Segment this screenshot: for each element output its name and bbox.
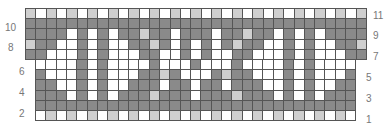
chart-cell	[108, 91, 118, 101]
chart-cell	[150, 101, 160, 111]
chart-cell	[212, 29, 222, 39]
chart-cell	[77, 60, 87, 70]
chart-cell	[150, 40, 160, 50]
chart-cell	[46, 80, 56, 90]
chart-cell	[26, 19, 36, 29]
chart-cell	[191, 91, 201, 101]
chart-cell	[129, 70, 139, 80]
chart-cell	[232, 101, 242, 111]
chart-cell	[160, 29, 170, 39]
chart-cell	[212, 60, 222, 70]
chart-cell	[119, 91, 129, 101]
chart-cell	[232, 111, 242, 121]
chart-cell	[274, 60, 284, 70]
chart-cell	[46, 60, 56, 70]
chart-cell	[129, 60, 139, 70]
chart-cell	[222, 91, 232, 101]
chart-cell	[294, 111, 304, 121]
chart-cell	[212, 19, 222, 29]
chart-cell	[191, 111, 201, 121]
chart-cell	[150, 29, 160, 39]
chart-cell	[150, 60, 160, 70]
chart-cell	[346, 60, 356, 70]
chart-cell	[78, 40, 88, 50]
chart-cell	[98, 29, 108, 39]
chart-cell	[181, 91, 191, 101]
chart-cell	[57, 91, 67, 101]
chart-cell	[201, 101, 211, 111]
chart-cell	[336, 60, 346, 70]
chart-cell	[326, 9, 336, 19]
chart-cell	[129, 9, 139, 19]
chart-cell	[336, 111, 346, 121]
chart-cell	[326, 29, 336, 39]
chart-cell	[243, 29, 253, 39]
chart-cell	[67, 101, 77, 111]
chart-cell	[77, 111, 87, 121]
chart-cell	[88, 60, 98, 70]
chart-cell	[263, 111, 273, 121]
chart-cell	[36, 101, 46, 111]
chart-cell	[57, 40, 67, 50]
chart-cell	[77, 80, 87, 90]
chart-grid-top	[25, 8, 367, 60]
chart-cell	[98, 111, 108, 121]
chart-cell	[46, 91, 56, 101]
chart-cell	[26, 40, 36, 50]
chart-cell	[171, 19, 181, 29]
chart-cell	[202, 29, 212, 39]
chart-cell	[67, 19, 77, 29]
chart-cell	[129, 80, 139, 90]
chart-cell	[36, 9, 46, 19]
chart-cell	[88, 19, 98, 29]
chart-cell	[139, 91, 149, 101]
chart-cell	[315, 9, 325, 19]
row-label-3: 3	[366, 94, 372, 104]
chart-cell	[243, 111, 253, 121]
chart-cell	[150, 80, 160, 90]
chart-cell	[305, 80, 315, 90]
chart-cell	[108, 111, 118, 121]
chart-cell	[284, 9, 294, 19]
chart-cell	[67, 91, 77, 101]
chart-cell	[108, 60, 118, 70]
chart-cell	[202, 9, 212, 19]
chart-cell	[57, 29, 67, 39]
chart-cell	[346, 19, 356, 29]
chart-cell	[160, 70, 170, 80]
chart-cell	[191, 9, 201, 19]
chart-cell	[57, 101, 67, 111]
chart-cell	[305, 101, 315, 111]
chart-cell	[274, 70, 284, 80]
chart-cell	[274, 19, 284, 29]
chart-cell	[181, 60, 191, 70]
chart-cell	[170, 101, 180, 111]
chart-cell	[98, 9, 108, 19]
chart-cell	[129, 91, 139, 101]
chart-cell	[191, 101, 201, 111]
row-label-2: 2	[19, 109, 25, 119]
chart-cell	[264, 9, 274, 19]
chart-cell	[346, 9, 356, 19]
chart-cell	[346, 29, 356, 39]
chart-cell	[263, 91, 273, 101]
chart-cell	[119, 40, 129, 50]
chart-cell	[47, 9, 57, 19]
chart-cell	[170, 80, 180, 90]
chart-cell	[274, 80, 284, 90]
chart-cell	[212, 9, 222, 19]
chart-cell	[243, 9, 253, 19]
chart-cell	[295, 40, 305, 50]
chart-cell	[274, 111, 284, 121]
chart-cell	[357, 50, 367, 60]
chart-cell	[129, 29, 139, 39]
chart-cell	[139, 60, 149, 70]
chart-cell	[263, 101, 273, 111]
chart-cell	[315, 91, 325, 101]
chart-cell	[67, 60, 77, 70]
chart-cell	[346, 40, 356, 50]
row-label-11: 11	[373, 11, 383, 21]
chart-cell	[233, 19, 243, 29]
chart-cell	[325, 70, 335, 80]
chart-cell	[201, 70, 211, 80]
